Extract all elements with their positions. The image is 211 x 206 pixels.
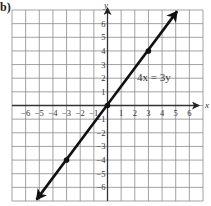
data-point-dot [146,48,152,54]
y-tick-label: 2 [101,73,105,83]
x-tick-label: 3 [146,108,150,118]
x-tick-label: 1 [119,108,123,118]
x-tick-label: 2 [133,108,137,118]
y-tick-label: 3 [101,60,105,70]
y-tick-label: 1 [101,87,105,97]
x-tick-label: 6 [187,108,191,118]
y-tick-label: −6 [96,182,105,192]
y-tick-label: −5 [96,169,105,179]
y-tick-label: −4 [96,155,106,165]
y-tick-label: −3 [96,141,105,151]
x-tick-label: −5 [35,108,44,118]
y-tick-label: 6 [101,19,105,29]
x-tick-label: 5 [174,108,178,118]
graph-figure: b) −6−5−4−3−2−1123456−6−5−4−3−2−1123456 … [0,0,211,206]
x-tick-label: −6 [21,108,30,118]
x-tick-label: 4 [160,108,165,118]
x-tick-label: −2 [76,108,85,118]
coordinate-plane: −6−5−4−3−2−1123456−6−5−4−3−2−1123456 4x … [0,0,211,206]
data-point-dot [64,157,70,163]
y-axis-label: y [103,0,108,10]
y-tick-label: 5 [101,32,105,42]
x-tick-label: −4 [48,108,58,118]
x-axis-label: x [204,100,209,110]
equation-label: 4x = 3y [137,71,171,83]
x-tick-label: −3 [62,108,71,118]
y-tick-label: −2 [96,128,105,138]
line-upper-ray [107,11,177,105]
data-point-dot [105,103,111,109]
